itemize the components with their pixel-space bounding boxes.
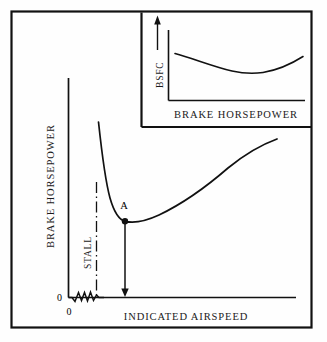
point-a-label: A [120, 200, 128, 211]
inset-x-axis-label: BRAKE HORSEPOWER [174, 109, 298, 120]
inset-y-axis-label: BSFC [155, 62, 165, 88]
main-x-axis-label: INDICATED AIRSPEED [124, 311, 248, 322]
main-y-axis-label: BRAKE HORSEPOWER [45, 124, 56, 248]
point-a-marker [122, 218, 128, 224]
stall-label: STALL [83, 236, 93, 269]
main-y-origin-tick: 0 [57, 292, 62, 303]
figure-svg: BRAKE HORSEPOWER INDICATED AIRSPEED 0 0 … [0, 0, 327, 342]
figure-container: BRAKE HORSEPOWER INDICATED AIRSPEED 0 0 … [0, 0, 327, 342]
main-x-origin-tick: 0 [67, 306, 72, 317]
